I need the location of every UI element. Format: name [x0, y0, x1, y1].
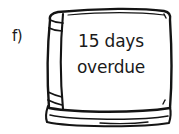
- book-cover-caption: 15 days overdue: [48, 28, 174, 80]
- caption-line-1: 15 days: [48, 28, 174, 54]
- caption-line-2: overdue: [48, 54, 174, 80]
- figure-panel: f) 15 days overdue: [0, 0, 179, 134]
- list-item-marker: f): [12, 24, 38, 48]
